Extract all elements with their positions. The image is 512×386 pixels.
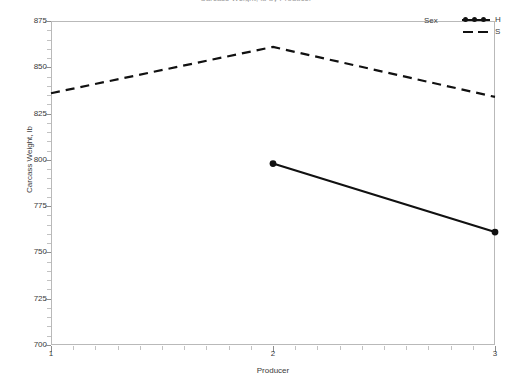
y-minor-tick-mark: [47, 308, 51, 309]
y-minor-tick-mark: [47, 77, 51, 78]
y-minor-tick-mark: [47, 262, 51, 263]
x-minor-tick-mark: [428, 346, 429, 350]
y-minor-tick-mark: [47, 280, 51, 281]
x-minor-tick-mark: [406, 346, 407, 350]
y-minor-tick-mark: [47, 58, 51, 59]
y-tick-mark: [45, 252, 51, 253]
x-minor-tick-mark: [229, 346, 230, 350]
y-minor-tick-mark: [47, 151, 51, 152]
y-minor-tick-mark: [47, 317, 51, 318]
series-h-solid: [270, 160, 499, 235]
y-minor-tick-mark: [47, 188, 51, 189]
y-minor-tick-mark: [47, 49, 51, 50]
data-point-marker: [270, 160, 277, 167]
x-minor-tick-mark: [295, 346, 296, 350]
y-minor-tick-mark: [47, 243, 51, 244]
x-minor-tick-mark: [140, 346, 141, 350]
y-minor-tick-mark: [47, 132, 51, 133]
y-tick-mark: [45, 67, 51, 68]
y-tick-mark: [45, 21, 51, 22]
x-tick-label: 3: [480, 349, 510, 358]
y-minor-tick-mark: [47, 197, 51, 198]
y-minor-tick-mark: [47, 178, 51, 179]
y-minor-tick-mark: [47, 289, 51, 290]
y-minor-tick-mark: [47, 225, 51, 226]
y-minor-tick-mark: [47, 95, 51, 96]
y-minor-tick-mark: [47, 326, 51, 327]
x-minor-tick-mark: [95, 346, 96, 350]
y-tick-mark: [45, 206, 51, 207]
y-minor-tick-mark: [47, 169, 51, 170]
series-layer: [0, 0, 512, 386]
y-minor-tick-mark: [47, 336, 51, 337]
y-tick-mark: [45, 114, 51, 115]
x-minor-tick-mark: [362, 346, 363, 350]
x-minor-tick-mark: [118, 346, 119, 350]
x-minor-tick-mark: [251, 346, 252, 350]
x-minor-tick-mark: [451, 346, 452, 350]
x-minor-tick-mark: [384, 346, 385, 350]
y-tick-mark: [45, 299, 51, 300]
x-minor-tick-mark: [473, 346, 474, 350]
x-minor-tick-mark: [206, 346, 207, 350]
y-minor-tick-mark: [47, 104, 51, 105]
x-minor-tick-mark: [73, 346, 74, 350]
x-tick-label: 2: [258, 349, 288, 358]
chart-figure: Carcass Weight, lb by Producer 700725750…: [0, 0, 512, 386]
x-minor-tick-mark: [340, 346, 341, 350]
y-minor-tick-mark: [47, 271, 51, 272]
x-minor-tick-mark: [184, 346, 185, 350]
series-s-dashed: [51, 47, 495, 97]
y-minor-tick-mark: [47, 30, 51, 31]
x-minor-tick-mark: [162, 346, 163, 350]
y-minor-tick-mark: [47, 141, 51, 142]
y-minor-tick-mark: [47, 123, 51, 124]
y-minor-tick-mark: [47, 234, 51, 235]
y-tick-mark: [45, 160, 51, 161]
y-minor-tick-mark: [47, 40, 51, 41]
y-minor-tick-mark: [47, 215, 51, 216]
data-point-marker: [492, 229, 499, 236]
x-minor-tick-mark: [317, 346, 318, 350]
x-tick-label: 1: [36, 349, 66, 358]
y-minor-tick-mark: [47, 86, 51, 87]
